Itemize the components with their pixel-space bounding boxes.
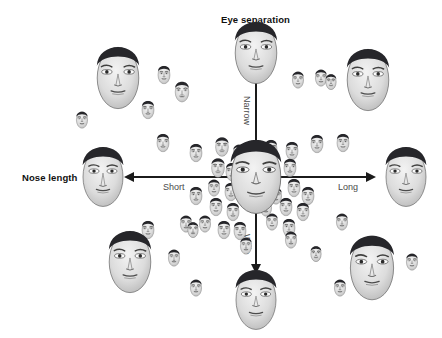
face-exemplar-44 xyxy=(405,253,419,271)
face-exemplar-42 xyxy=(310,246,323,263)
face-exemplar-12 xyxy=(310,134,325,153)
face-axis-extreme-long xyxy=(381,145,431,209)
face-quadrant-lower-right xyxy=(345,233,399,302)
face-exemplar-29 xyxy=(287,178,302,197)
face-exemplar-36 xyxy=(187,222,200,239)
face-exemplar-26 xyxy=(239,237,253,255)
face-exemplar-02 xyxy=(174,81,191,103)
face-exemplar-21 xyxy=(209,197,224,216)
face-prototype-center xyxy=(225,137,287,216)
face-exemplar-14 xyxy=(291,71,305,89)
face-exemplar-05 xyxy=(156,133,171,152)
face-exemplar-04 xyxy=(75,111,89,129)
face-exemplar-20 xyxy=(189,186,204,205)
face-exemplar-41 xyxy=(335,213,349,231)
face-axis-extreme-wide xyxy=(231,268,281,332)
face-axis-extreme-narrow xyxy=(230,20,282,87)
face-quadrant-lower-left xyxy=(104,229,156,296)
face-exemplar-45 xyxy=(325,74,338,91)
face-quadrant-upper-left xyxy=(92,45,144,112)
face-exemplar-32 xyxy=(296,202,311,221)
face-space-figure: Eye separation Nose length Narrow Wide S… xyxy=(0,0,442,338)
face-axis-extreme-short xyxy=(78,145,128,209)
face-exemplar-24 xyxy=(217,220,232,239)
face-quadrant-upper-right xyxy=(342,47,394,114)
face-exemplar-38 xyxy=(167,249,181,267)
face-exemplar-23 xyxy=(198,215,212,233)
face-exemplar-13 xyxy=(336,133,351,152)
face-exemplar-39 xyxy=(189,279,203,297)
face-exemplar-06 xyxy=(189,143,204,162)
face-exemplar-01 xyxy=(157,65,172,84)
face-exemplar-18 xyxy=(207,179,221,197)
face-scatter-layer xyxy=(0,0,442,338)
face-exemplar-40 xyxy=(284,231,298,249)
